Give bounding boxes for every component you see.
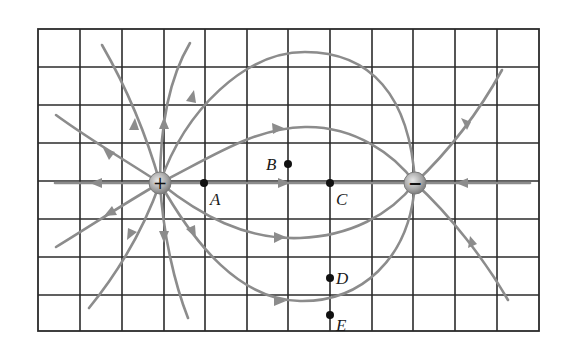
arrow-icon [186, 90, 196, 103]
point-c-dot [326, 179, 334, 187]
arrow-icon [274, 232, 286, 243]
positive-charge: + [149, 172, 171, 194]
point-d-label: D [335, 269, 349, 288]
arrow-icon [159, 117, 169, 129]
point-a-label: A [209, 190, 221, 209]
point-c-label: C [336, 190, 348, 209]
field-line-neg-upper-right [415, 70, 502, 183]
point-a-dot [200, 179, 208, 187]
arrow-icon [272, 123, 284, 134]
point-e-label: E [335, 316, 347, 335]
point-e-dot [326, 311, 334, 319]
field-arrowheads [90, 90, 477, 306]
field-line-pos-down-left [89, 183, 160, 308]
field-line-pos-up-left [102, 45, 160, 183]
arrow-icon [456, 178, 468, 188]
point-b-dot [284, 160, 292, 168]
field-line-pos-left-up [56, 115, 160, 183]
point-b-label: B [266, 155, 277, 174]
arrow-icon [90, 178, 102, 188]
field-line-neg-lower-right [415, 183, 508, 300]
minus-sign-icon: − [408, 173, 422, 193]
point-d-dot [326, 274, 334, 282]
negative-charge: − [404, 172, 426, 194]
dipole-field-diagram: + − A B C D E [0, 0, 564, 348]
plus-sign-icon: + [153, 173, 167, 193]
grid-vertical-lines [80, 29, 497, 331]
